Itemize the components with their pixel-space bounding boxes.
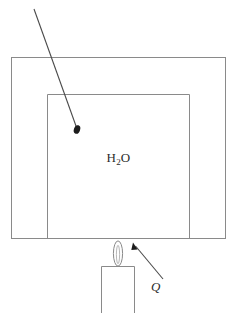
outer-vessel-rectangle — [12, 58, 226, 239]
flame-outer — [113, 241, 122, 266]
water-pointer-arrowhead — [73, 124, 82, 134]
heat-symbol-label: Q — [151, 280, 160, 293]
flame-icon — [113, 241, 122, 266]
water-formula-subscript: 2 — [116, 157, 121, 167]
physics-diagram-figure: H2O Q — [0, 0, 237, 313]
water-pointer-arrow — [34, 9, 81, 135]
burner-box — [102, 267, 135, 313]
heat-pointer-shaft — [136, 246, 164, 279]
water-formula-h: H — [107, 150, 117, 165]
water-formula-label: H2O — [0, 151, 237, 164]
water-formula-o: O — [121, 150, 131, 165]
heat-pointer-arrow — [131, 243, 163, 280]
heat-pointer-arrowhead — [131, 243, 137, 250]
water-pointer-shaft — [34, 9, 76, 126]
